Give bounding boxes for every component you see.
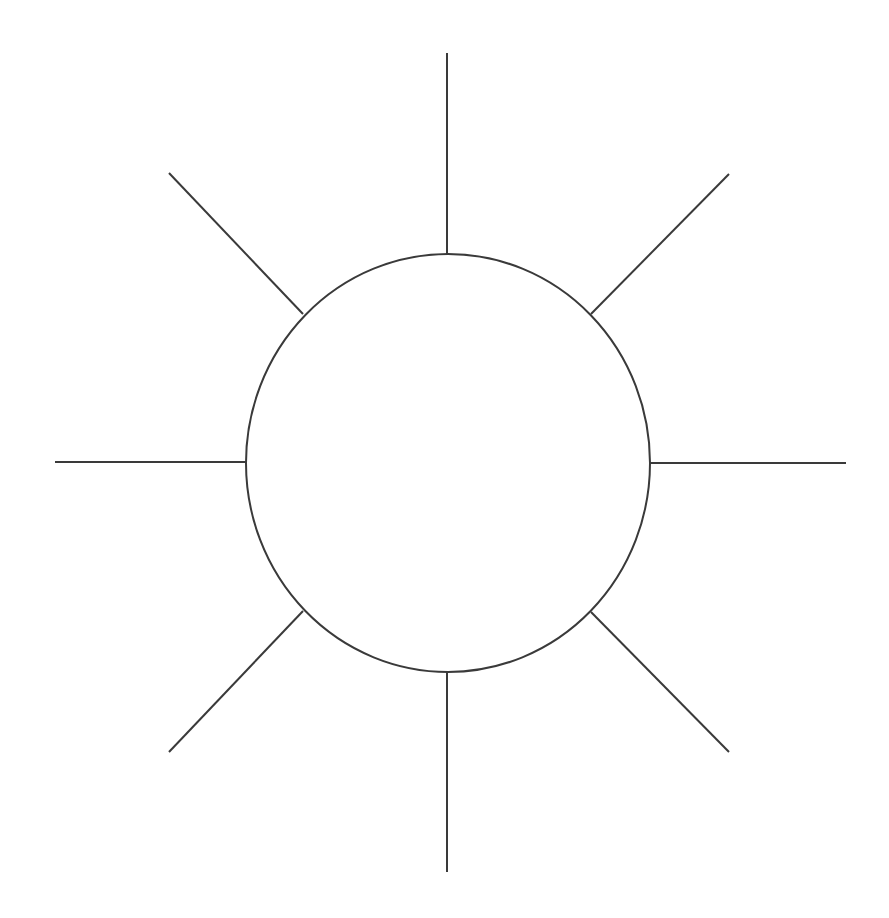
- background: [0, 0, 889, 918]
- sun-diagram: [0, 0, 889, 918]
